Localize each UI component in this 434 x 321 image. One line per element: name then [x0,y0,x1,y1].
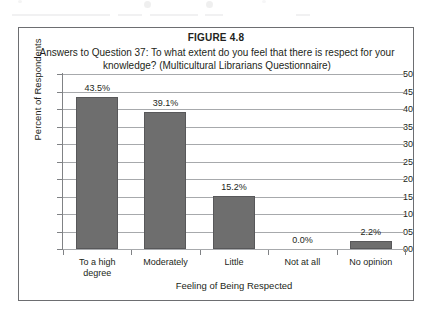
gridline [63,74,405,75]
x-axis-category-label: No opinion [337,257,405,268]
plot-area: 43.5%39.1%15.2%0.0%2.2% [63,74,405,249]
x-axis-category-label: Little [200,257,268,268]
x-axis-tick [63,250,64,255]
x-axis-title: Feeling of Being Respected [63,280,405,291]
bar-value-label: 2.2% [337,228,405,237]
figure-container: FIGURE 4.8 Answers to Question 37: To wh… [18,27,414,301]
category-label-line: To a high [63,257,131,268]
y-axis-tick [57,179,62,180]
bar-value-label: 43.5% [63,84,131,93]
y-axis-tick [57,249,62,250]
y-axis-title: Percent of Respondents [32,20,43,160]
y-axis-tick [57,74,62,75]
y-axis-tick [57,197,62,198]
x-axis-tick [405,250,406,255]
bar [213,196,255,249]
y-axis-tick [57,214,62,215]
bar [76,97,118,249]
x-axis-category-label: To a highdegree [63,257,131,279]
figure-caption: Answers to Question 37: To what extent d… [31,46,403,72]
scan-artifacts [0,0,434,22]
category-label-line: No opinion [337,257,405,268]
x-axis-tick [268,250,269,255]
category-label-line: Little [200,257,268,268]
gridline [63,249,405,250]
y-axis-tick [57,92,62,93]
category-label-line: Not at all [268,257,336,268]
y-axis-tick [57,109,62,110]
x-axis-category-label: Not at all [268,257,336,268]
bar-value-label: 0.0% [268,236,336,245]
x-axis-category-label: Moderately [131,257,199,268]
y-axis-tick [57,162,62,163]
y-axis-tick [57,127,62,128]
x-axis-tick [337,250,338,255]
category-label-line: Moderately [131,257,199,268]
bar [144,112,186,249]
bar-value-label: 39.1% [131,99,199,108]
x-axis-tick [200,250,201,255]
x-axis-tick [131,250,132,255]
bar [350,241,392,249]
y-axis-tick [57,232,62,233]
bar-value-label: 15.2% [200,183,268,192]
figure-number: FIGURE 4.8 [19,32,413,43]
y-axis-tick [57,144,62,145]
category-label-line: degree [63,268,131,279]
